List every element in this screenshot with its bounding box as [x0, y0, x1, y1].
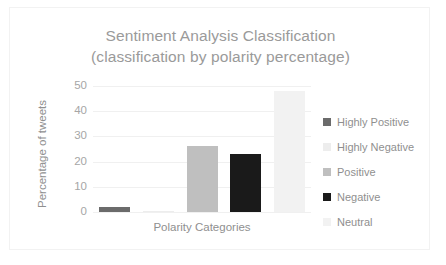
- legend-item-highly-positive[interactable]: Highly Positive: [323, 111, 427, 133]
- y-axis-tick-40: 40: [61, 105, 87, 117]
- bar-highly-positive[interactable]: [99, 207, 130, 212]
- gridline: [93, 212, 311, 213]
- chart-title-line-1: Sentiment Analysis Classification: [106, 27, 336, 44]
- legend-item-label: Highly Positive: [337, 116, 409, 128]
- plot-area: [93, 86, 311, 212]
- legend-item-label: Negative: [337, 191, 380, 203]
- bar-negative[interactable]: [230, 154, 261, 212]
- y-axis-tick-10: 10: [61, 181, 87, 193]
- legend-swatch-icon: [323, 118, 331, 126]
- y-axis-tick-20: 20: [61, 156, 87, 168]
- y-axis-tick-50: 50: [61, 80, 87, 92]
- legend-item-label: Neutral: [337, 216, 372, 228]
- y-axis-title: Percentage of tweets: [36, 100, 48, 208]
- chart-container: Sentiment Analysis Classification (class…: [9, 7, 430, 250]
- legend-item-highly-negative[interactable]: Highly Negative: [323, 136, 427, 158]
- y-axis-tick-0: 0: [61, 206, 87, 218]
- chart-title: Sentiment Analysis Classification (class…: [10, 25, 431, 67]
- chart-title-line-2: (classification by polarity percentage): [10, 46, 431, 67]
- legend-item-neutral[interactable]: Neutral: [323, 211, 427, 233]
- bar-highly-negative[interactable]: [143, 211, 174, 212]
- bar-positive[interactable]: [187, 146, 218, 212]
- legend-item-label: Highly Negative: [337, 141, 414, 153]
- legend-item-negative[interactable]: Negative: [323, 186, 427, 208]
- bar-series: [93, 86, 311, 212]
- legend-item-label: Positive: [337, 166, 376, 178]
- chart-legend: Highly PositiveHighly NegativePositiveNe…: [323, 111, 427, 236]
- legend-swatch-icon: [323, 143, 331, 151]
- legend-swatch-icon: [323, 168, 331, 176]
- legend-swatch-icon: [323, 193, 331, 201]
- legend-item-positive[interactable]: Positive: [323, 161, 427, 183]
- x-axis-title: Polarity Categories: [93, 221, 311, 233]
- legend-swatch-icon: [323, 218, 331, 226]
- bar-neutral[interactable]: [274, 91, 305, 212]
- y-axis-tick-30: 30: [61, 130, 87, 142]
